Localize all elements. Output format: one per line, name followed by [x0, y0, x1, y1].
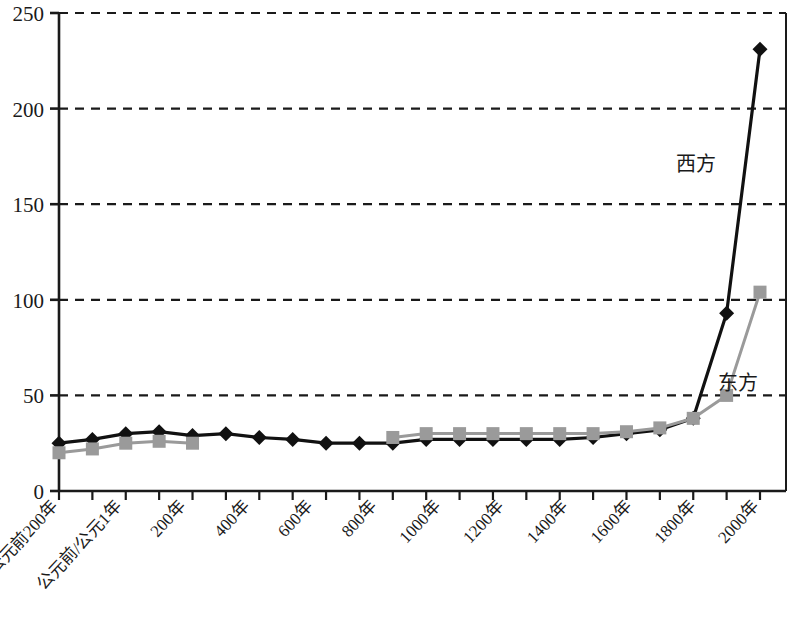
x-tick-label-group: 400年 [210, 497, 253, 541]
data-point-marker [754, 286, 767, 299]
data-point-marker [753, 42, 768, 57]
x-tick-label-group: 1400年 [523, 497, 572, 547]
y-tick-label: 100 [13, 289, 45, 313]
data-point-marker [319, 436, 334, 451]
data-point-marker [486, 427, 499, 440]
gridline-group [59, 13, 786, 395]
x-tick-label: 1200年 [459, 497, 508, 547]
data-point-marker [86, 442, 99, 455]
east-series-label: 东方 [718, 372, 758, 394]
x-tick-label: 1000年 [396, 497, 445, 547]
x-tick-label-group: 1000年 [396, 497, 445, 547]
x-tick-label: 600年 [274, 497, 317, 541]
data-point-marker [653, 421, 666, 434]
data-point-marker [386, 431, 399, 444]
data-point-marker [420, 427, 433, 440]
x-tick-label: 1800年 [651, 497, 700, 547]
chart-figure: 250200150100500 公元前200年公元前/公元1年200年400年6… [0, 0, 804, 633]
y-tick-label: 250 [13, 2, 45, 26]
data-point-marker [520, 427, 533, 440]
data-point-marker [218, 426, 233, 441]
y-axis-tick-labels: 250200150100500 [13, 2, 45, 504]
x-tick-label: 800年 [338, 497, 381, 541]
data-point-marker [453, 427, 466, 440]
data-point-marker [687, 412, 700, 425]
x-tick-label-group: 1200年 [459, 497, 508, 547]
data-point-marker [119, 437, 132, 450]
data-point-marker [53, 446, 66, 459]
x-tick-label: 200年 [146, 497, 189, 541]
data-point-marker [153, 435, 166, 448]
data-point-marker [285, 432, 300, 447]
series-line [393, 292, 760, 437]
x-tick-label: 2000年 [714, 497, 763, 547]
x-tick-label-group: 1600年 [587, 497, 636, 547]
west-series-label: 西方 [676, 153, 716, 175]
line-chart-canvas: 250200150100500 公元前200年公元前/公元1年200年400年6… [0, 0, 804, 633]
y-tick-label: 150 [13, 193, 45, 217]
x-axis-tick-labels: 公元前200年公元前/公元1年200年400年600年800年1000年1200… [0, 497, 763, 594]
x-tick-label: 1400年 [523, 497, 572, 547]
data-series-group [52, 42, 768, 459]
x-tick-label-group: 2000年 [714, 497, 763, 547]
series-annotation-group: 西方东方 [676, 153, 758, 394]
x-tick-label-group: 1800年 [651, 497, 700, 547]
data-point-marker [719, 306, 734, 321]
data-point-marker [620, 425, 633, 438]
plot-frame [59, 13, 786, 491]
data-point-marker [587, 427, 600, 440]
x-tick-label-group: 600年 [274, 497, 317, 541]
x-tick-label: 400年 [210, 497, 253, 541]
data-point-marker [186, 437, 199, 450]
series-west [52, 42, 768, 451]
y-tick-label: 50 [23, 384, 44, 408]
x-tick-label-group: 800年 [338, 497, 381, 541]
data-point-marker [352, 436, 367, 451]
data-point-marker [252, 430, 267, 445]
data-point-marker [553, 427, 566, 440]
y-tick-label: 0 [34, 480, 45, 504]
y-tick-label: 200 [13, 98, 45, 122]
x-tick-label-group: 200年 [146, 497, 189, 541]
x-tick-label: 1600年 [587, 497, 636, 547]
